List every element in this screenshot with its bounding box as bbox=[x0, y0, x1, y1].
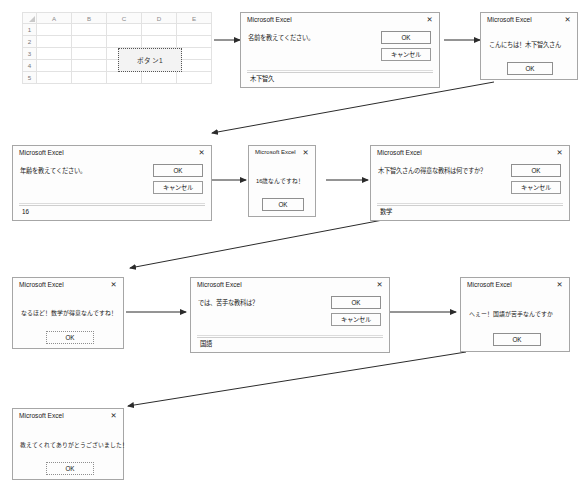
ok-button[interactable]: OK bbox=[511, 164, 561, 177]
column-header-d[interactable]: D bbox=[142, 13, 177, 24]
dialog-titlebar: Microsoft Excel ✕ bbox=[241, 13, 439, 28]
column-header-row: A B C D E bbox=[23, 13, 212, 24]
dialog-prompt: 木下智久さんの得意な教科は何ですか？ bbox=[378, 166, 486, 175]
dialog-titlebar: Microsoft Excel ✕ bbox=[191, 278, 389, 293]
dialog-title: Microsoft Excel bbox=[487, 16, 532, 23]
close-icon[interactable]: ✕ bbox=[301, 148, 310, 157]
ok-button[interactable]: OK bbox=[153, 164, 203, 177]
dialog-confirm-best-subject[interactable]: Microsoft Excel ✕ なるほど！数学が得意なんですね！ OK bbox=[12, 277, 124, 349]
close-icon[interactable]: ✕ bbox=[555, 280, 564, 289]
column-header-c[interactable]: C bbox=[107, 13, 142, 24]
input-field[interactable]: 16 bbox=[19, 205, 205, 217]
divider bbox=[377, 203, 563, 204]
close-icon[interactable]: ✕ bbox=[375, 280, 384, 289]
row-header-2[interactable]: 2 bbox=[23, 36, 37, 48]
cancel-button[interactable]: キャンセル bbox=[381, 48, 431, 61]
excel-worksheet: A B C D E 1 2 3 bbox=[22, 12, 212, 84]
cancel-button[interactable]: キャンセル bbox=[331, 313, 381, 326]
cell-b1[interactable] bbox=[72, 24, 107, 36]
arrow-confirm-worst-to-thanks bbox=[128, 352, 466, 406]
ok-button[interactable]: OK bbox=[46, 331, 94, 344]
row-header-1[interactable]: 1 bbox=[23, 24, 37, 36]
close-icon[interactable]: ✕ bbox=[109, 411, 118, 420]
column-header-e[interactable]: E bbox=[177, 13, 212, 24]
ok-button[interactable]: OK bbox=[46, 462, 94, 475]
cancel-button[interactable]: キャンセル bbox=[153, 181, 203, 194]
dialog-prompt: 16歳なんですね！ bbox=[256, 176, 304, 185]
triangle-icon bbox=[29, 16, 35, 22]
dialog-title: Microsoft Excel bbox=[19, 281, 64, 288]
ok-button[interactable]: OK bbox=[381, 31, 431, 44]
dialog-confirm-worst-subject[interactable]: Microsoft Excel ✕ へぇー！国語が苦手なんですか OK bbox=[460, 277, 570, 352]
ok-button[interactable]: OK bbox=[331, 296, 381, 309]
cell-c5[interactable] bbox=[107, 72, 142, 84]
cell-d5[interactable] bbox=[142, 72, 177, 84]
cancel-button[interactable]: キャンセル bbox=[511, 181, 561, 194]
table-row: 5 bbox=[23, 72, 212, 84]
arrow-ask-best-to-confirm-best bbox=[130, 219, 388, 268]
dialog-ask-worst-subject[interactable]: Microsoft Excel ✕ では、苦手な教科は？ OK キャンセル 国語 bbox=[190, 277, 390, 353]
table-row: 4 bbox=[23, 60, 212, 72]
dialog-title: Microsoft Excel bbox=[247, 16, 292, 23]
ok-button[interactable]: OK bbox=[493, 333, 541, 346]
dialog-thanks[interactable]: Microsoft Excel ✕ 教えてくれてありがとうございました！ OK bbox=[12, 408, 124, 480]
divider bbox=[247, 70, 433, 71]
worksheet-grid: A B C D E 1 2 3 bbox=[22, 12, 212, 84]
column-header-a[interactable]: A bbox=[37, 13, 72, 24]
dialog-prompt: 教えてくれてありがとうございました！ bbox=[20, 440, 128, 449]
flow-diagram-canvas: A B C D E 1 2 3 bbox=[0, 0, 583, 498]
row-header-3[interactable]: 3 bbox=[23, 48, 37, 60]
cell-d1[interactable] bbox=[142, 24, 177, 36]
dialog-prompt: なるほど！数学が得意なんですね！ bbox=[21, 308, 117, 317]
close-icon[interactable]: ✕ bbox=[563, 15, 572, 24]
input-field[interactable]: 数学 bbox=[377, 205, 563, 217]
dialog-titlebar: Microsoft Excel ✕ bbox=[13, 278, 123, 293]
dialog-titlebar: Microsoft Excel ✕ bbox=[13, 146, 211, 161]
close-icon[interactable]: ✕ bbox=[109, 280, 118, 289]
cell-a4[interactable] bbox=[37, 60, 72, 72]
close-icon[interactable]: ✕ bbox=[197, 148, 206, 157]
dialog-ask-best-subject[interactable]: Microsoft Excel ✕ 木下智久さんの得意な教科は何ですか？ OK … bbox=[370, 145, 570, 221]
cell-a5[interactable] bbox=[37, 72, 72, 84]
dialog-confirm-age[interactable]: Microsoft Excel ✕ 16歳なんですね！ OK bbox=[248, 145, 316, 217]
dialog-prompt: へぇー！国語が苦手なんですか bbox=[469, 309, 553, 318]
cell-b4[interactable] bbox=[72, 60, 107, 72]
ok-button[interactable]: OK bbox=[262, 198, 304, 211]
cell-a1[interactable] bbox=[37, 24, 72, 36]
cell-c2[interactable] bbox=[107, 36, 142, 48]
table-row: 1 bbox=[23, 24, 212, 36]
select-all-corner[interactable] bbox=[23, 13, 37, 24]
cell-e5[interactable] bbox=[177, 72, 212, 84]
input-field[interactable]: 国語 bbox=[197, 337, 383, 349]
ok-button[interactable]: OK bbox=[507, 62, 553, 75]
dialog-ask-name[interactable]: Microsoft Excel ✕ 名前を教えてください。 OK キャンセル 木… bbox=[240, 12, 440, 88]
cell-d2[interactable] bbox=[142, 36, 177, 48]
cell-e2[interactable] bbox=[177, 36, 212, 48]
row-header-4[interactable]: 4 bbox=[23, 60, 37, 72]
cell-a2[interactable] bbox=[37, 36, 72, 48]
dialog-titlebar: Microsoft Excel ✕ bbox=[371, 146, 569, 161]
close-icon[interactable]: ✕ bbox=[425, 15, 434, 24]
dialog-prompt: こんにちは！木下智久さん bbox=[489, 40, 561, 49]
cell-c1[interactable] bbox=[107, 24, 142, 36]
table-row: 3 bbox=[23, 48, 212, 60]
dialog-greet-name[interactable]: Microsoft Excel ✕ こんにちは！木下智久さん OK bbox=[480, 12, 578, 80]
macro-button-1[interactable]: ボタン1 bbox=[118, 48, 182, 72]
close-icon[interactable]: ✕ bbox=[555, 148, 564, 157]
arrow-greet-to-ask-age bbox=[212, 82, 494, 133]
dialog-title: Microsoft Excel bbox=[197, 281, 242, 288]
cell-b3[interactable] bbox=[72, 48, 107, 60]
cell-a3[interactable] bbox=[37, 48, 72, 60]
cell-e1[interactable] bbox=[177, 24, 212, 36]
divider bbox=[19, 203, 205, 204]
dialog-ask-age[interactable]: Microsoft Excel ✕ 年齢を教えてください。 OK キャンセル 1… bbox=[12, 145, 212, 221]
dialog-title: Microsoft Excel bbox=[19, 149, 64, 156]
dialog-title: Microsoft Excel bbox=[255, 149, 296, 155]
cell-b2[interactable] bbox=[72, 36, 107, 48]
input-field[interactable]: 木下智久 bbox=[247, 72, 433, 84]
dialog-title: Microsoft Excel bbox=[467, 281, 512, 288]
column-header-b[interactable]: B bbox=[72, 13, 107, 24]
cell-b5[interactable] bbox=[72, 72, 107, 84]
dialog-prompt: 名前を教えてください。 bbox=[248, 33, 314, 42]
row-header-5[interactable]: 5 bbox=[23, 72, 37, 84]
